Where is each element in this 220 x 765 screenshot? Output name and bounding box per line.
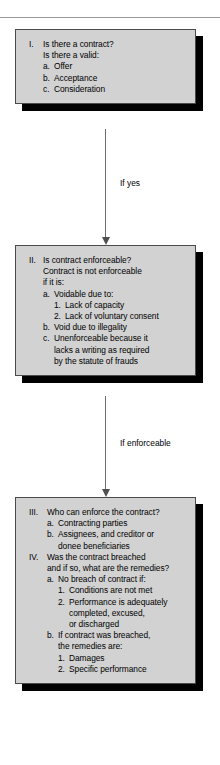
outline-text: Specific performance	[69, 664, 189, 675]
outline-marker: b.	[43, 322, 54, 333]
outline-marker: 1.	[58, 653, 69, 664]
outline-marker: b.	[43, 73, 54, 84]
outline-text: Assignees, and creditor or	[58, 529, 189, 540]
outline-text: donee beneficiaries	[58, 541, 189, 552]
outline-row: b.If contract was breached,	[23, 630, 189, 641]
outline-row: Is there a valid:	[23, 50, 189, 61]
outline-text: if it is:	[43, 277, 189, 288]
connector-enforceable-label: If enforceable	[120, 438, 171, 448]
outline-marker: a.	[47, 574, 58, 585]
outline-marker: 2.	[58, 664, 69, 675]
outline-row: the remedies are:	[23, 641, 189, 652]
outline-text: Contracting parties	[58, 518, 189, 529]
outline-row: a.Contracting parties	[23, 518, 189, 529]
outline-text: Lack of voluntary consent	[65, 311, 189, 322]
outline-row: donee beneficiaries	[23, 541, 189, 552]
connector-yes-label: If yes	[120, 178, 140, 188]
outline-row: c.Consideration	[23, 84, 189, 95]
outline-marker: II.	[29, 255, 43, 266]
connector-enforceable-line	[105, 396, 106, 489]
outline-row: II.Is contract enforceable?	[23, 255, 189, 266]
outline-marker: 1.	[58, 585, 69, 596]
outline-row: lacks a writing as required	[23, 345, 189, 356]
outline-row: and if so, what are the remedies?	[23, 563, 189, 574]
outline-text: and if so, what are the remedies?	[47, 563, 189, 574]
outline-marker: a.	[47, 518, 58, 529]
outline-row: b.Assignees, and creditor or	[23, 529, 189, 540]
outline-text: Acceptance	[54, 73, 189, 84]
outline-marker: a.	[43, 289, 54, 300]
outline-row: Contract is not enforceable	[23, 266, 189, 277]
outline-marker: b.	[47, 630, 58, 641]
outline-text: Is there a valid:	[43, 50, 189, 61]
outline-text: lacks a writing as required	[54, 345, 189, 356]
connector-yes-line	[105, 129, 106, 237]
top-divider-rule	[0, 17, 220, 18]
node-3-body: III.Who can enforce the contract?a.Contr…	[16, 498, 195, 683]
node-1-body: I.Is there a contract?Is there a valid:a…	[16, 30, 195, 103]
outline-row: 1.Conditions are not met	[23, 585, 189, 596]
outline-text: Unenforceable because it	[54, 333, 189, 344]
outline-text: Voidable due to:	[54, 289, 189, 300]
connector-enforceable-arrowhead	[102, 489, 110, 497]
outline-row: if it is:	[23, 277, 189, 288]
outline-row: 1.Damages	[23, 653, 189, 664]
outline-row: b.Acceptance	[23, 73, 189, 84]
outline-text: Consideration	[54, 84, 189, 95]
flowchart-node-enforce-breach: III.Who can enforce the contract?a.Contr…	[15, 497, 196, 684]
outline-marker: b.	[47, 529, 58, 540]
outline-text: Is contract enforceable?	[43, 255, 189, 266]
outline-text: completed, excused,	[69, 608, 189, 619]
outline-row: 2.Performance is adequately	[23, 597, 189, 608]
flowchart-node-enforceable: II.Is contract enforceable?Contract is n…	[15, 245, 196, 376]
outline-marker: a.	[43, 61, 54, 72]
outline-row: 1.Lack of capacity	[23, 300, 189, 311]
outline-text: If contract was breached,	[58, 630, 189, 641]
outline-text: Lack of capacity	[65, 300, 189, 311]
outline-text: Void due to illegality	[54, 322, 189, 333]
node-2-body: II.Is contract enforceable?Contract is n…	[16, 246, 195, 375]
outline-marker: III.	[29, 507, 47, 518]
outline-row: a.Offer	[23, 61, 189, 72]
outline-text: Offer	[54, 61, 189, 72]
outline-row: c.Unenforceable because it	[23, 333, 189, 344]
outline-text: or discharged	[69, 619, 189, 630]
outline-marker: 1.	[54, 300, 65, 311]
outline-text: Damages	[69, 653, 189, 664]
outline-marker: 2.	[58, 597, 69, 608]
outline-text: Performance is adequately	[69, 597, 189, 608]
outline-marker: 2.	[54, 311, 65, 322]
outline-marker: IV.	[29, 552, 47, 563]
outline-text: Contract is not enforceable	[43, 266, 189, 277]
outline-row: 2.Lack of voluntary consent	[23, 311, 189, 322]
outline-text: No breach of contract if:	[58, 574, 189, 585]
outline-row: 2.Specific performance	[23, 664, 189, 675]
flowchart-node-contract: I.Is there a contract?Is there a valid:a…	[15, 29, 196, 104]
outline-marker: c.	[43, 333, 54, 344]
outline-row: I.Is there a contract?	[23, 39, 189, 50]
outline-row: by the statute of frauds	[23, 356, 189, 367]
connector-yes-arrowhead	[102, 237, 110, 245]
outline-text: Conditions are not met	[69, 585, 189, 596]
flowchart-page: I.Is there a contract?Is there a valid:a…	[0, 0, 220, 765]
outline-text: Was the contract breached	[47, 552, 189, 563]
outline-row: III.Who can enforce the contract?	[23, 507, 189, 518]
outline-row: or discharged	[23, 619, 189, 630]
outline-row: a.Voidable due to:	[23, 289, 189, 300]
outline-row: a.No breach of contract if:	[23, 574, 189, 585]
outline-text: Who can enforce the contract?	[47, 507, 189, 518]
outline-text: Is there a contract?	[43, 39, 189, 50]
outline-text: by the statute of frauds	[54, 356, 189, 367]
outline-row: b.Void due to illegality	[23, 322, 189, 333]
outline-marker: I.	[29, 39, 43, 50]
outline-marker: c.	[43, 84, 54, 95]
outline-row: IV.Was the contract breached	[23, 552, 189, 563]
outline-text: the remedies are:	[58, 641, 189, 652]
outline-row: completed, excused,	[23, 608, 189, 619]
